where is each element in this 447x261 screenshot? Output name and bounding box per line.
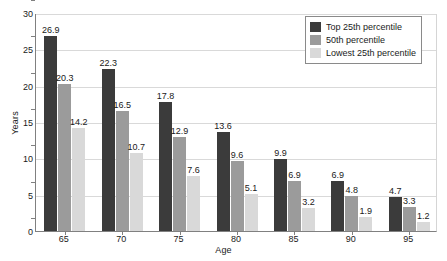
- x-tick-label: 85: [273, 234, 313, 244]
- bar: 3.2: [302, 208, 315, 231]
- bar-value-label: 4.7: [389, 186, 402, 196]
- y-tick-mark: [31, 145, 35, 146]
- y-tick-mark: [31, 109, 35, 110]
- bar: 10.7: [130, 153, 143, 231]
- bar-group: 17.812.97.6: [159, 14, 200, 231]
- y-tick-mark: [31, 73, 35, 74]
- bar-group: 22.316.510.7: [102, 14, 143, 231]
- bar: 6.9: [331, 181, 344, 231]
- bar-value-label: 9.6: [231, 150, 244, 160]
- bar-value-label: 3.2: [302, 197, 315, 207]
- y-tick-mark: [31, 36, 35, 37]
- y-tick-label: 0: [7, 228, 33, 237]
- bar: 9.9: [274, 159, 287, 231]
- bar-value-label: 6.9: [332, 170, 345, 180]
- y-tick-label: 25: [7, 46, 33, 55]
- bar: 5.1: [245, 194, 258, 231]
- x-tick-label: 70: [101, 234, 141, 244]
- bar: 6.9: [288, 181, 301, 231]
- x-tick-label: 95: [388, 234, 428, 244]
- y-tick-mark: [31, 182, 35, 183]
- y-tick-mark: [31, 0, 35, 1]
- legend-swatch-icon: [310, 35, 321, 45]
- bar-value-label: 7.6: [187, 165, 200, 175]
- bar-value-label: 12.9: [171, 126, 189, 136]
- x-tick-label: 75: [159, 234, 199, 244]
- bar-value-label: 9.9: [274, 148, 287, 158]
- bar-value-label: 6.9: [288, 170, 301, 180]
- legend-swatch-icon: [310, 22, 321, 32]
- bar: 26.9: [44, 36, 57, 231]
- bar: 4.8: [345, 196, 358, 231]
- legend-label: Top 25th percentile: [326, 22, 402, 32]
- legend-label: 50th percentile: [326, 35, 385, 45]
- x-tick-label: 80: [216, 234, 256, 244]
- y-tick-label: 30: [7, 10, 33, 19]
- y-tick-mark: [31, 218, 35, 219]
- legend-label: Lowest 25th percentile: [326, 48, 416, 58]
- y-tick-label: 5: [7, 192, 33, 201]
- legend-item-0: Top 25th percentile: [310, 20, 416, 33]
- legend-item-2: Lowest 25th percentile: [310, 46, 416, 59]
- bar-value-label: 20.3: [56, 73, 74, 83]
- bar-value-label: 1.9: [360, 206, 373, 216]
- bar: 4.7: [389, 197, 402, 231]
- bar-value-label: 4.8: [346, 185, 359, 195]
- bar: 14.2: [72, 128, 85, 231]
- bar: 22.3: [102, 69, 115, 231]
- bar-value-label: 16.5: [113, 100, 131, 110]
- chart-legend: Top 25th percentile 50th percentile Lowe…: [305, 16, 422, 64]
- bar: 7.6: [187, 176, 200, 231]
- bar: 20.3: [58, 84, 71, 232]
- bar-chart: Years 26.920.314.222.316.510.717.812.97.…: [0, 0, 447, 261]
- bar-value-label: 1.2: [417, 211, 430, 221]
- bar-value-label: 17.8: [157, 91, 175, 101]
- y-tick-label: 10: [7, 155, 33, 164]
- bar: 1.2: [417, 222, 430, 231]
- legend-swatch-icon: [310, 48, 321, 58]
- bar-value-label: 14.2: [70, 117, 88, 127]
- y-tick-label: 20: [7, 83, 33, 92]
- bar: 16.5: [116, 111, 129, 231]
- y-tick-label: 15: [7, 119, 33, 128]
- bar-value-label: 10.7: [127, 142, 145, 152]
- x-tick-label: 90: [331, 234, 371, 244]
- bar-value-label: 22.3: [99, 58, 117, 68]
- bar-value-label: 26.9: [42, 25, 60, 35]
- x-axis-title: Age: [0, 245, 447, 255]
- legend-item-1: 50th percentile: [310, 33, 416, 46]
- bar: 12.9: [173, 137, 186, 231]
- bar-group: 26.920.314.2: [44, 14, 85, 231]
- x-tick-label: 65: [44, 234, 84, 244]
- bar-value-label: 13.6: [214, 121, 232, 131]
- bar: 1.9: [359, 217, 372, 231]
- bar: 17.8: [159, 102, 172, 231]
- bar-value-label: 5.1: [245, 183, 258, 193]
- bar: 13.6: [217, 132, 230, 231]
- bar-group: 13.69.65.1: [217, 14, 258, 231]
- bar-value-label: 3.3: [403, 196, 416, 206]
- bar: 3.3: [403, 207, 416, 231]
- bar: 9.6: [231, 161, 244, 231]
